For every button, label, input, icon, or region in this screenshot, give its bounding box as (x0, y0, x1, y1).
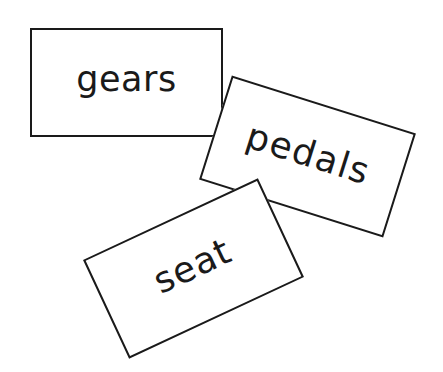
card-label: gears (76, 62, 176, 103)
word-card-seat: seat (83, 178, 304, 358)
word-card-gears: gears (30, 28, 223, 137)
card-label: seat (148, 232, 239, 304)
